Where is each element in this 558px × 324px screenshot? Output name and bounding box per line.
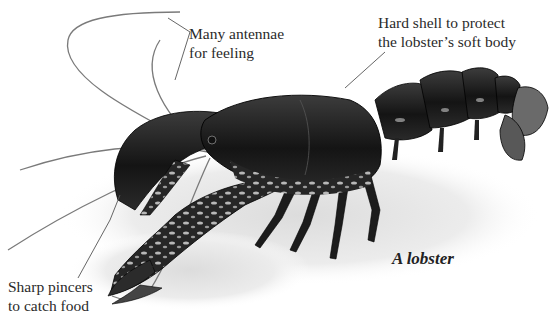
lobster-diagram: Many antennae for feeling Hard shell to … [0, 0, 558, 324]
label-pincers-line-1: Sharp pincers [8, 277, 93, 296]
leader-antennae [168, 18, 190, 80]
label-pincers: Sharp pincers to catch food [8, 277, 93, 315]
label-shell-line-1: Hard shell to protect [378, 13, 516, 32]
tail [375, 68, 548, 160]
leader-shell [345, 52, 385, 88]
label-antennae-line-1: Many antennae [189, 24, 284, 43]
figure-caption: A lobster [392, 249, 454, 269]
label-shell-line-2: the lobster’s soft body [378, 32, 516, 51]
label-pincers-line-2: to catch food [8, 296, 93, 315]
label-shell: Hard shell to protect the lobster’s soft… [378, 13, 516, 51]
label-antennae: Many antennae for feeling [189, 24, 284, 62]
label-antennae-line-2: for feeling [189, 43, 284, 62]
